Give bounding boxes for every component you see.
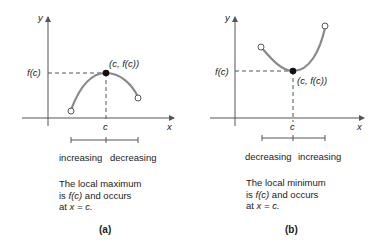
open-endpoint-right	[322, 23, 328, 29]
fc-label: f(c)	[215, 66, 229, 77]
diagram-canvas	[0, 0, 378, 251]
description-a: The local maximum is f(c) and occurs at …	[59, 178, 141, 213]
open-endpoint-left	[68, 108, 74, 114]
curve-min	[261, 28, 325, 71]
y-axis-label: y	[225, 12, 230, 23]
open-endpoint-right	[135, 95, 141, 101]
fc-label: f(c)	[27, 67, 41, 78]
max-point	[103, 70, 110, 77]
x-axis-label: x	[167, 121, 172, 132]
y-axis-label: y	[38, 12, 43, 23]
c-label: c	[290, 121, 295, 132]
interval-left-label: decreasing	[245, 151, 291, 162]
interval-left-label: increasing	[59, 152, 102, 163]
x-axis-label: x	[357, 121, 362, 132]
description-b: The local minimum is f(c) and occurs at …	[246, 177, 326, 212]
c-label: c	[103, 121, 108, 132]
interval-right-label: decreasing	[110, 152, 156, 163]
open-endpoint-left	[258, 44, 264, 50]
panel-a-graph	[22, 17, 174, 143]
caption-a: (a)	[99, 224, 111, 235]
min-point	[290, 68, 297, 75]
interval-right-label: increasing	[298, 151, 341, 162]
point-label: (c, f(c))	[109, 58, 139, 69]
panel-b-graph	[210, 17, 364, 141]
caption-b: (b)	[285, 224, 298, 235]
point-label: (c, f(c))	[297, 75, 327, 86]
curve-max	[71, 73, 138, 110]
